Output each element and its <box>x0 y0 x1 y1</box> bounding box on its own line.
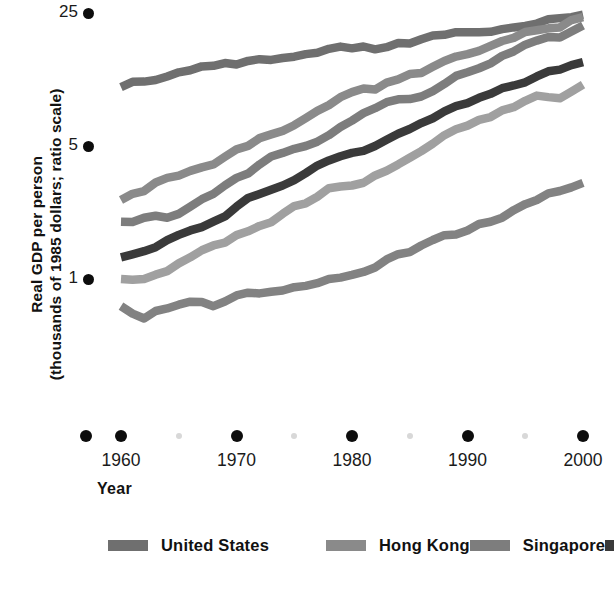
x-tick-dot <box>115 430 127 442</box>
legend-label: United States <box>161 536 269 555</box>
x-tick-dot <box>346 430 358 442</box>
legend-swatch <box>108 540 148 551</box>
legend-item[interactable]: Singapore <box>470 533 605 558</box>
x-tick-dot <box>577 430 589 442</box>
x-tick-label: 1970 <box>207 450 267 471</box>
legend-swatch <box>470 540 510 551</box>
legend-swatch <box>605 540 614 551</box>
x-tick-dot <box>231 430 243 442</box>
series-line <box>121 25 583 222</box>
legend-swatch <box>326 540 366 551</box>
x-tick-label: 1990 <box>438 450 498 471</box>
x-tick-label: 1960 <box>91 450 151 471</box>
x-tick-label: 2000 <box>553 450 613 471</box>
legend-item[interactable]: Hong Kong <box>326 533 470 558</box>
chart-container: Real GDP per person (thousands of 1985 d… <box>0 0 614 614</box>
x-axis-title: Year <box>97 480 132 498</box>
chart-legend: United StatesHong KongSingaporeTaiwanKor… <box>108 533 548 558</box>
x-tick-label: 1980 <box>322 450 382 471</box>
legend-item[interactable]: United States <box>108 533 326 558</box>
x-tick-dot <box>462 430 474 442</box>
legend-label: Singapore <box>523 536 605 555</box>
plot-area <box>0 0 614 614</box>
x-tick-dot-minor <box>407 433 413 439</box>
x-tick-dot-minor <box>176 433 182 439</box>
series-line <box>121 85 583 280</box>
legend-label: Hong Kong <box>379 536 470 555</box>
legend-item[interactable]: Taiwan <box>605 533 614 558</box>
